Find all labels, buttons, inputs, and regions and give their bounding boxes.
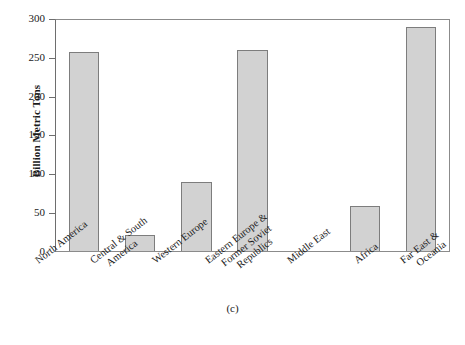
bar-slot: [224, 20, 280, 251]
bar-chart-figure: Billion Metric Tons 300 250 200 150 100 …: [0, 0, 465, 345]
bar-slot: [281, 20, 337, 251]
bar-slot: [168, 20, 224, 251]
y-tick-label: 300: [0, 13, 45, 24]
y-tick-label: 150: [0, 129, 45, 140]
y-tick-label: 100: [0, 168, 45, 179]
y-tick-label: 50: [0, 207, 45, 218]
bar-series: [56, 20, 449, 251]
bar-slot: [337, 20, 393, 251]
y-tick-label: 250: [0, 52, 45, 63]
y-tick-label: 200: [0, 91, 45, 102]
bar-far-east-oceania: [406, 27, 436, 251]
bar-slot: [56, 20, 112, 251]
subfigure-caption: (c): [0, 302, 465, 314]
bar-slot: [393, 20, 449, 251]
